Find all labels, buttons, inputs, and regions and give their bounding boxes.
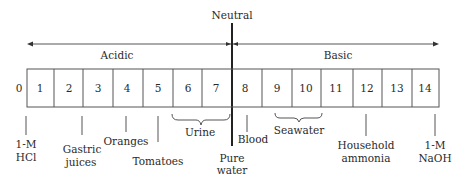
ph-value-6: 6	[185, 82, 192, 94]
label-naoh-line1: 1-M	[425, 139, 446, 151]
basic-label: Basic	[324, 49, 353, 61]
ph-value-12: 12	[360, 82, 373, 94]
ph-value-13: 13	[390, 82, 403, 94]
label-ammonia-line2: ammonia	[342, 152, 391, 164]
label-naoh-line2: NaOH	[418, 152, 451, 164]
ph-value-8: 8	[242, 82, 249, 94]
label-oranges: Oranges	[104, 135, 149, 147]
label-hcl-line2: HCl	[16, 151, 37, 163]
ph-value-4: 4	[124, 82, 131, 94]
ph-value-0: 0	[16, 82, 23, 94]
neutral-label: Neutral	[211, 9, 252, 21]
label-urine: Urine	[185, 126, 215, 138]
ph-value-2: 2	[66, 82, 73, 94]
label-seawater: Seawater	[274, 124, 324, 136]
label-pure-water-line1: Pure	[219, 152, 244, 164]
ph-value-14: 14	[418, 82, 431, 94]
acidic-label: Acidic	[101, 49, 134, 61]
ph-value-9: 9	[274, 82, 281, 94]
label-blood: Blood	[238, 133, 268, 145]
label-gastric-line1: Gastric	[63, 143, 102, 155]
ph-value-11: 11	[329, 82, 342, 94]
label-gastric-line2: juices	[66, 156, 97, 168]
label-ammonia-line1: Household	[337, 139, 394, 151]
label-tomatoes: Tomatoes	[133, 155, 184, 167]
label-hcl-line1: 1-M	[16, 138, 37, 150]
ph-value-7: 7	[213, 82, 220, 94]
ph-value-1: 1	[37, 82, 44, 94]
ph-value-3: 3	[95, 82, 102, 94]
label-pure-water-line2: water	[217, 164, 248, 176]
ph-value-5: 5	[155, 82, 162, 94]
ph-value-10: 10	[299, 82, 312, 94]
